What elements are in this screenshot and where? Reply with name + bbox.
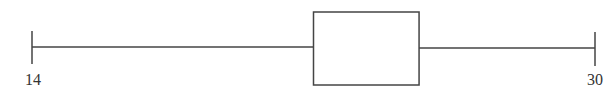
box-plot bbox=[0, 0, 615, 94]
max-label: 30 bbox=[587, 72, 603, 88]
interquartile-box bbox=[314, 12, 420, 85]
min-label: 14 bbox=[25, 72, 41, 88]
